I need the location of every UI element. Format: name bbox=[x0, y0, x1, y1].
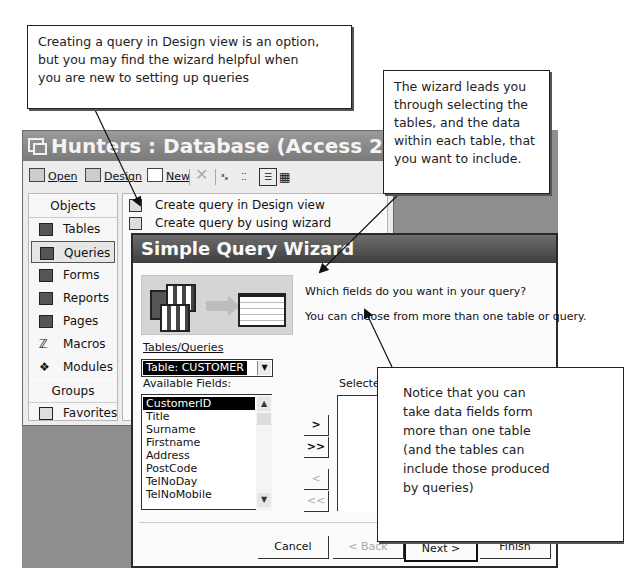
callout-multiple-tables-note: Notice that you can take data fields for… bbox=[377, 367, 624, 542]
database-toolbar: Open Design New ✕ ᵃₐ ⁚⁚ ☰ ▦ bbox=[23, 163, 393, 191]
details-icon[interactable]: ▦ bbox=[279, 168, 290, 186]
create-query-wizard[interactable]: Create query by using wizard bbox=[127, 214, 331, 232]
available-fields-label: Available Fields: bbox=[143, 377, 231, 390]
field-item[interactable]: Firstname bbox=[143, 436, 255, 449]
wizard-title-bar[interactable]: Simple Query Wizard bbox=[133, 235, 556, 263]
group-favorites[interactable]: Favorites bbox=[31, 402, 115, 424]
wizard-illustration bbox=[141, 275, 293, 335]
scroll-thumb[interactable] bbox=[257, 413, 271, 425]
tables-queries-value: Table: CUSTOMER bbox=[143, 361, 247, 375]
add-all-fields-button[interactable]: >> bbox=[304, 437, 329, 458]
remove-all-fields-button[interactable]: << bbox=[304, 491, 329, 512]
object-queries[interactable]: Queries bbox=[31, 241, 115, 263]
wand-icon bbox=[129, 199, 142, 212]
available-fields-list[interactable]: CustomerID Title Surname Firstname Addre… bbox=[141, 394, 272, 510]
favorites-folder-icon bbox=[39, 407, 53, 420]
add-field-button[interactable]: > bbox=[304, 415, 329, 436]
create-query-design-view[interactable]: Create query in Design view bbox=[127, 196, 325, 214]
database-window-icon bbox=[28, 138, 44, 152]
toolbar-divider bbox=[189, 169, 190, 185]
objects-bar: Objects Tables Queries Forms Reports Pag… bbox=[28, 193, 118, 421]
field-item[interactable]: PostCode bbox=[143, 462, 255, 475]
field-item[interactable]: CustomerID bbox=[143, 397, 255, 410]
design-icon bbox=[85, 168, 101, 182]
tables-queries-label: Tables/Queries bbox=[143, 341, 223, 354]
object-forms[interactable]: Forms bbox=[31, 264, 115, 286]
source-table-icon bbox=[160, 304, 190, 332]
page-icon bbox=[39, 315, 53, 328]
cancel-button[interactable]: Cancel bbox=[258, 536, 329, 559]
delete-x-icon[interactable]: ✕ bbox=[195, 166, 208, 184]
report-icon bbox=[39, 292, 53, 305]
wand-icon bbox=[129, 217, 142, 230]
object-tables[interactable]: Tables bbox=[31, 218, 115, 240]
remove-field-button[interactable]: < bbox=[304, 469, 329, 490]
database-window-title: Hunters : Database (Access 2000 file f..… bbox=[51, 134, 393, 158]
query-icon bbox=[40, 247, 54, 260]
scroll-up-icon[interactable]: ▲ bbox=[257, 397, 271, 411]
table-icon bbox=[39, 223, 53, 236]
field-item[interactable]: TelNoMobile bbox=[143, 488, 255, 501]
groups-header[interactable]: Groups bbox=[29, 379, 117, 403]
small-icons-icon[interactable]: ⁚⁚ bbox=[241, 168, 247, 186]
field-item[interactable]: Address bbox=[143, 449, 255, 462]
open-button[interactable]: Open bbox=[29, 168, 77, 186]
callout-wizard-note: The wizard leads you through selecting t… bbox=[383, 70, 550, 194]
objects-header[interactable]: Objects bbox=[29, 194, 117, 218]
new-button[interactable]: New bbox=[147, 168, 190, 186]
scroll-down-icon[interactable]: ▼ bbox=[257, 493, 271, 507]
module-icon: ❖ bbox=[39, 356, 51, 367]
tables-queries-select[interactable]: Table: CUSTOMER ▼ bbox=[141, 359, 273, 377]
wizard-prompt: Which fields do you want in your query? bbox=[305, 285, 526, 298]
wizard-hint: You can choose from more than one table … bbox=[305, 310, 587, 323]
field-item[interactable]: Title bbox=[143, 410, 255, 423]
macro-icon: ℤ bbox=[39, 333, 51, 344]
object-macros[interactable]: ℤ Macros bbox=[31, 333, 115, 355]
design-button[interactable]: Design bbox=[85, 168, 142, 186]
database-window-title-bar[interactable]: Hunters : Database (Access 2000 file f..… bbox=[23, 131, 393, 161]
new-icon bbox=[147, 168, 163, 182]
list-icon[interactable]: ☰ bbox=[259, 168, 277, 186]
large-icons-icon[interactable]: ᵃₐ bbox=[221, 168, 228, 186]
result-table-icon bbox=[238, 293, 286, 327]
object-reports[interactable]: Reports bbox=[31, 287, 115, 309]
open-icon bbox=[29, 168, 45, 182]
callout-design-view-note: Creating a query in Design view is an op… bbox=[27, 25, 352, 109]
object-modules[interactable]: ❖ Modules bbox=[31, 356, 115, 378]
form-icon bbox=[39, 269, 53, 282]
fields-scrollbar[interactable]: ▲ ▼ bbox=[256, 395, 272, 511]
object-pages[interactable]: Pages bbox=[31, 310, 115, 332]
field-item[interactable]: TelNoDay bbox=[143, 475, 255, 488]
toolbar-divider bbox=[215, 169, 216, 185]
arrow-icon bbox=[206, 301, 228, 311]
chevron-down-icon[interactable]: ▼ bbox=[257, 361, 271, 375]
field-item[interactable]: Surname bbox=[143, 423, 255, 436]
